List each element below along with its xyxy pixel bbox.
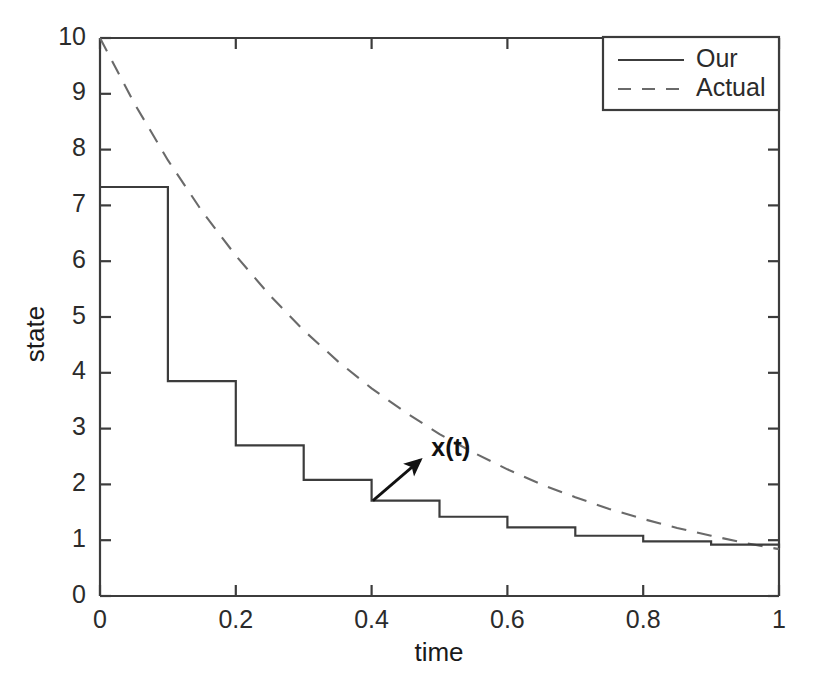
y-tick-label: 6 xyxy=(72,245,86,273)
y-axis-title: state xyxy=(20,306,50,362)
legend-label-actual: Actual xyxy=(696,73,765,101)
y-tick-label: 0 xyxy=(72,580,86,608)
y-tick-label: 9 xyxy=(72,77,86,105)
x-tick-label: 0.4 xyxy=(354,605,389,633)
y-tick-label: 4 xyxy=(72,356,86,384)
x-tick-label: 0.6 xyxy=(490,605,525,633)
x-tick-label: 0.2 xyxy=(218,605,253,633)
x-tick-label: 0 xyxy=(93,605,107,633)
y-tick-label: 5 xyxy=(72,301,86,329)
x-tick-label: 0.8 xyxy=(626,605,661,633)
legend-label-our: Our xyxy=(696,44,738,72)
chart-figure: 00.20.40.60.81 012345678910 x(t) Our xyxy=(0,0,820,685)
chart-canvas: 00.20.40.60.81 012345678910 x(t) Our xyxy=(0,0,820,685)
y-tick-label: 8 xyxy=(72,133,86,161)
x-axis-title: time xyxy=(414,637,463,667)
annotation-label: x(t) xyxy=(431,433,470,461)
legend: Our Actual xyxy=(603,37,779,110)
y-tick-label: 10 xyxy=(58,22,86,50)
x-tick-label: 1 xyxy=(772,605,786,633)
y-tick-label: 2 xyxy=(72,468,86,496)
y-tick-label: 1 xyxy=(72,524,86,552)
y-tick-label: 7 xyxy=(72,189,86,217)
y-tick-label: 3 xyxy=(72,412,86,440)
